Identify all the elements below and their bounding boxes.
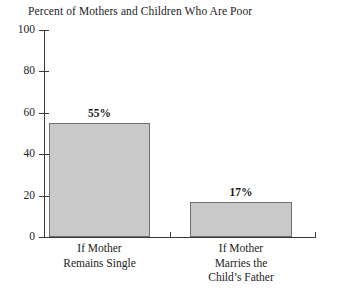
y-axis-label-0: 0 bbox=[1, 230, 35, 242]
category-label-1-line-1: Marries the bbox=[185, 256, 297, 271]
y-axis-label-80: 80 bbox=[1, 64, 35, 76]
x-axis-tick-start bbox=[44, 232, 45, 238]
bar-if-mother-remains-single bbox=[49, 123, 150, 237]
y-axis-label-40: 40 bbox=[1, 147, 35, 159]
y-axis-line bbox=[44, 30, 45, 237]
y-axis-tick-80 bbox=[39, 71, 49, 72]
x-axis-tick-middle bbox=[170, 232, 171, 238]
bar-value-label-0: 55% bbox=[49, 107, 150, 119]
y-axis-tick-40 bbox=[39, 154, 49, 155]
y-axis-label-60: 60 bbox=[1, 106, 35, 118]
y-axis-tick-100 bbox=[39, 30, 49, 31]
y-axis-label-100: 100 bbox=[1, 23, 35, 35]
chart-title: Percent of Mothers and Children Who Are … bbox=[28, 5, 252, 17]
bar-if-mother-marries-the-childs-father bbox=[190, 202, 292, 237]
category-label-1-line-0: If Mother bbox=[185, 241, 297, 256]
y-axis-tick-20 bbox=[39, 196, 49, 197]
category-label-0-line-0: If Mother bbox=[42, 241, 157, 256]
category-label-0-line-1: Remains Single bbox=[42, 256, 157, 271]
x-axis-tick-end bbox=[315, 232, 316, 238]
category-label-1-line-2: Child’s Father bbox=[185, 270, 297, 285]
y-axis-tick-60 bbox=[39, 113, 49, 114]
y-axis-label-20: 20 bbox=[1, 189, 35, 201]
x-axis-category-label-1: If Mother Marries the Child’s Father bbox=[185, 241, 297, 285]
bar-chart: Percent of Mothers and Children Who Are … bbox=[0, 0, 339, 294]
x-axis-category-label-0: If Mother Remains Single bbox=[42, 241, 157, 270]
bar-value-label-1: 17% bbox=[190, 186, 292, 198]
x-axis-line bbox=[44, 237, 316, 238]
